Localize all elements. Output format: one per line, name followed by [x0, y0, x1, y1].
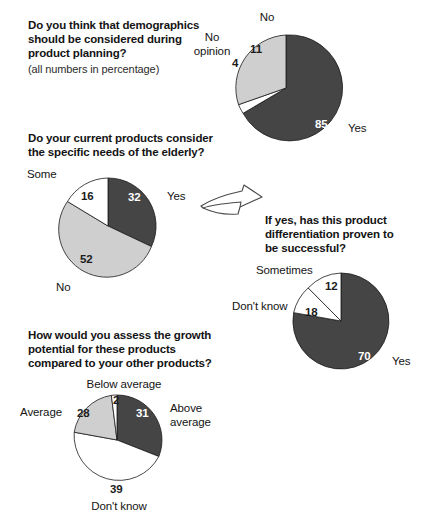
chart3-pie-svg — [292, 272, 390, 370]
chart4-value-dont-know: 39 — [110, 483, 123, 495]
chart1-value-no: 11 — [250, 43, 262, 55]
chart2-value-yes: 32 — [128, 191, 141, 203]
chart1-label-no-opinion: No opinion — [186, 31, 238, 58]
chart1-label-yes: Yes — [348, 122, 388, 136]
chart4-label-above-average: Above average — [170, 402, 230, 429]
chart4-label-average: Average — [4, 406, 62, 420]
chart4-value-below-average: 2 — [113, 394, 119, 406]
chart2-value-some: 16 — [81, 190, 94, 202]
chart4-value-above-average: 31 — [136, 407, 149, 419]
chart2-pie — [59, 177, 157, 275]
chart2-value-no: 52 — [80, 253, 93, 265]
chart4-question: How would you assess the growth potentia… — [28, 328, 233, 371]
chart2-question: Do your current products consider the sp… — [28, 131, 228, 159]
chart3-value-dont-know: 18 — [305, 306, 318, 318]
infographic-canvas: Do you think that demographics should be… — [0, 0, 428, 526]
chart4-label-dont-know: Don't know — [64, 500, 174, 514]
chart2-pie-svg — [59, 177, 157, 275]
right-arrow-icon — [200, 183, 268, 227]
chart1-note: (all numbers in percentage) — [28, 62, 228, 76]
chart3-label-yes: Yes — [392, 355, 426, 369]
chart4-label-below-average: Below average — [69, 378, 179, 392]
chart1-label-no: No — [245, 11, 289, 25]
chart3-label-dont-know: Don't know — [232, 300, 304, 314]
chart2-label-some: Some — [27, 168, 87, 182]
chart2-label-no: No — [56, 281, 96, 295]
chart4-value-average: 28 — [77, 407, 90, 419]
chart1-value-yes: 85 — [315, 118, 328, 130]
chart3-pie — [292, 272, 390, 370]
chart3-label-sometimes: Sometimes — [256, 264, 328, 278]
chart3-value-sometimes: 12 — [325, 280, 338, 292]
chart1-value-no-opinion: 4 — [232, 57, 238, 69]
right-arrow-outline-svg — [200, 183, 268, 223]
chart3-value-yes: 70 — [358, 350, 371, 362]
chart3-question: If yes, has this product differentiation… — [265, 213, 428, 256]
